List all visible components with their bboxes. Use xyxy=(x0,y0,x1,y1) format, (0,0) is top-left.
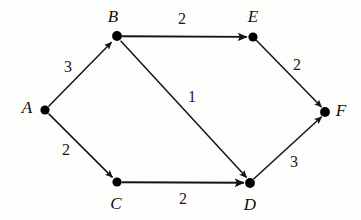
edge-b-to-e xyxy=(122,36,247,37)
edges-layer xyxy=(49,36,322,183)
edge-weight-e-to-f: 2 xyxy=(293,57,301,73)
edge-weight-c-to-d: 2 xyxy=(179,191,187,207)
graph-diagram-canvas: A B C D E F 3 2 2 1 2 2 3 xyxy=(0,0,361,220)
edge-weight-a-to-c: 2 xyxy=(62,142,70,158)
node-label-d: D xyxy=(244,196,256,213)
node-e[interactable] xyxy=(248,32,257,41)
edge-weight-b-to-d: 1 xyxy=(188,89,196,105)
node-d[interactable] xyxy=(245,178,255,188)
edge-c-to-d xyxy=(122,182,244,183)
edge-weight-d-to-f: 3 xyxy=(290,154,298,170)
node-b[interactable] xyxy=(112,31,122,41)
node-label-c: C xyxy=(110,195,121,212)
edge-a-to-c xyxy=(49,114,113,178)
edge-e-to-f xyxy=(256,40,321,107)
nodes-layer xyxy=(40,31,330,188)
edge-d-to-f xyxy=(253,117,321,179)
node-label-a: A xyxy=(22,99,32,116)
node-label-b: B xyxy=(108,8,118,25)
node-label-f: F xyxy=(336,102,346,119)
node-c[interactable] xyxy=(112,177,121,186)
edge-weight-b-to-e: 2 xyxy=(178,11,186,27)
edge-a-to-b xyxy=(49,42,112,106)
node-f[interactable] xyxy=(320,107,330,117)
node-label-e: E xyxy=(248,8,258,25)
edge-weight-a-to-b: 3 xyxy=(64,59,72,75)
graph-svg xyxy=(0,0,361,220)
edge-b-to-d xyxy=(121,41,247,178)
node-a[interactable] xyxy=(40,105,49,114)
